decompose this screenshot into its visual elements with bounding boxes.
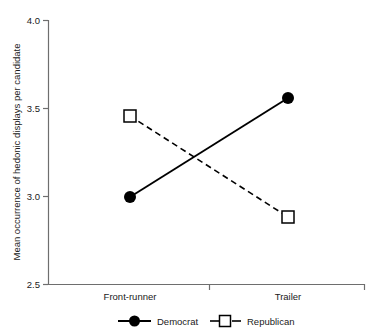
legend-item-democrat: Democrat (118, 316, 199, 328)
line-chart: 4.0 3.5 3.0 2.5 Mean occurrence of hedon… (0, 0, 375, 336)
legend-label-democrat: Democrat (157, 316, 199, 327)
series-line-republican (130, 116, 288, 217)
legend-marker-democrat-circle-icon (129, 316, 140, 327)
series-line-democrat (130, 98, 288, 197)
legend-label-republican: Republican (247, 316, 295, 327)
data-point-democrat-front-runner (124, 191, 136, 203)
x-category-label-trailer: Trailer (275, 291, 302, 302)
y-tick-label-2-5: 2.5 (27, 279, 40, 290)
data-point-democrat-trailer (282, 92, 294, 104)
x-category-label-front-runner: Front-runner (104, 291, 157, 302)
legend-item-republican: Republican (210, 316, 295, 328)
y-tick-label-3-0: 3.0 (27, 191, 40, 202)
chart-canvas: 4.0 3.5 3.0 2.5 Mean occurrence of hedon… (0, 0, 375, 336)
y-tick-label-3-5: 3.5 (27, 103, 40, 114)
data-point-republican-trailer (282, 211, 294, 223)
data-point-republican-front-runner (124, 110, 136, 122)
y-axis-title: Mean occurrence of hedonic displays per … (11, 43, 22, 260)
legend-marker-republican-square-icon (220, 316, 231, 327)
y-tick-label-4-0: 4.0 (27, 15, 40, 26)
